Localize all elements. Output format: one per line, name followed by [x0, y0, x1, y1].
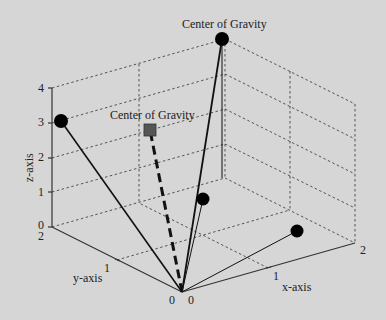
x-tick-1: 1 — [273, 269, 279, 283]
point-marker — [215, 32, 229, 46]
y-axis-label: y-axis — [73, 271, 103, 285]
point-marker — [197, 193, 210, 206]
cog-top-label: Center of Gravity — [182, 17, 267, 31]
x-tick-2: 2 — [360, 243, 366, 257]
axes — [48, 88, 355, 292]
z-tick-3: 3 — [38, 115, 44, 129]
labels: Center of Gravity Center of Gravity 4 3 … — [22, 17, 366, 307]
x-tick-0: 0 — [188, 293, 194, 307]
z-axis-label: z-axis — [22, 153, 36, 182]
vector-to-point-3 — [182, 199, 203, 292]
vector-to-point-4 — [182, 231, 297, 292]
3d-scatter-plot: Center of Gravity Center of Gravity 4 3 … — [0, 0, 386, 320]
y-tick-2: 2 — [38, 229, 44, 243]
vectors — [61, 39, 297, 292]
vector-to-point-2 — [182, 39, 222, 292]
x-axis-label: x-axis — [282, 280, 312, 294]
cog-square-marker — [144, 124, 156, 136]
y-tick-1: 1 — [104, 261, 110, 275]
y-tick-0: 0 — [169, 293, 175, 307]
point-marker — [54, 114, 68, 128]
point-marker — [291, 225, 304, 238]
cog-square-label: Center of Gravity — [110, 108, 195, 122]
z-tick-2: 2 — [38, 150, 44, 164]
markers — [54, 32, 304, 238]
z-tick-4: 4 — [38, 81, 44, 95]
z-tick-1: 1 — [38, 185, 44, 199]
